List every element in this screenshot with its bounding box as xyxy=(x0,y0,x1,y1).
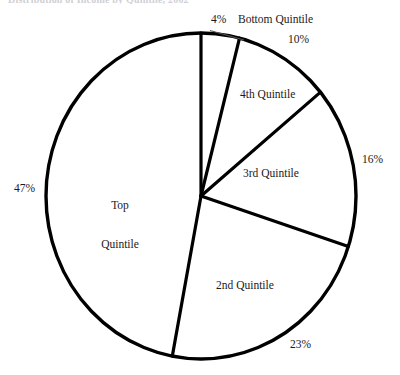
slice-label-top-quintile-line2: Quintile xyxy=(90,238,150,251)
slice-label-top-quintile: Top Quintile xyxy=(90,173,150,277)
slice-label-fourth-quintile: 4th Quintile xyxy=(240,88,295,101)
slice-value-top-quintile: 47% xyxy=(14,182,35,195)
slice-value-fourth-quintile: 10% xyxy=(288,33,309,46)
slice-value-second-quintile: 23% xyxy=(290,338,311,351)
slice-label-third-quintile: 3rd Quintile xyxy=(243,167,299,180)
pie-chart-figure: Distribution of Income by Quintile, 2002… xyxy=(0,0,400,375)
slice-label-second-quintile: 2nd Quintile xyxy=(216,279,274,292)
slice-value-bottom-quintile: 4% xyxy=(211,13,226,26)
slice-label-bottom-quintile: Bottom Quintile xyxy=(238,13,313,26)
slice-value-third-quintile: 16% xyxy=(362,153,383,166)
slice-label-top-quintile-line1: Top xyxy=(90,199,150,212)
pie-chart-canvas xyxy=(0,0,400,375)
